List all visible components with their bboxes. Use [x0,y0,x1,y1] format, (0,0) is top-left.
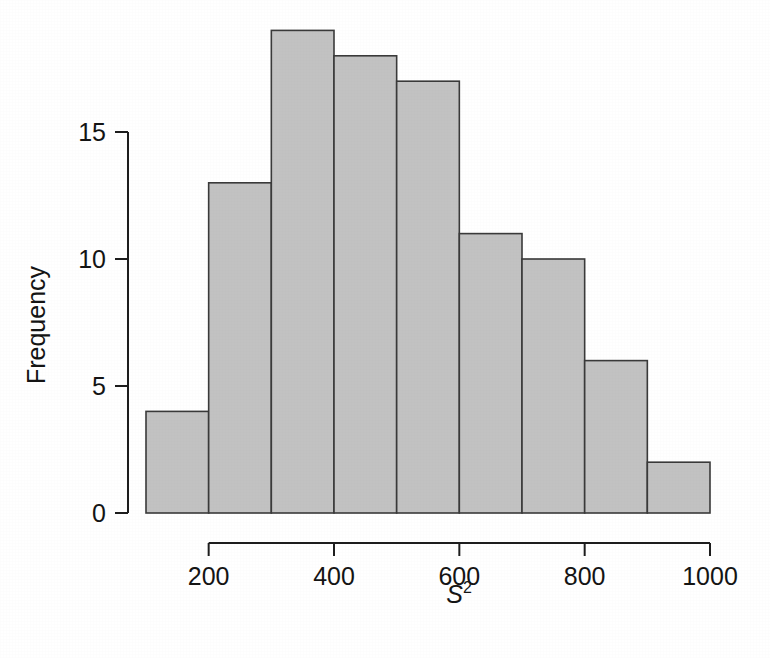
y-tick-label: 15 [78,118,106,146]
histogram-bar [459,234,522,513]
histogram-bar [397,81,460,513]
histogram-bar [334,56,397,513]
histogram-bar [271,30,334,513]
x-tick-label: 200 [188,562,230,590]
histogram-bar [522,259,585,513]
x-tick-label: 800 [564,562,606,590]
x-axis-title-exponent: 2 [463,579,472,596]
histogram-bar [146,411,209,513]
histogram-bar [647,462,710,513]
histogram-bar [209,183,272,513]
y-tick-label: 0 [92,499,106,527]
histogram-bar [585,361,648,513]
y-axis-title: Frequency [22,265,50,384]
histogram-figure: 151050 2004006008001000 Frequency S2 [0,0,770,658]
x-tick-label: 1000 [682,562,738,590]
histogram-plot: 151050 2004006008001000 Frequency S2 [0,0,770,658]
y-axis-title-text: Frequency [22,265,50,384]
y-tick-label: 5 [92,372,106,400]
y-tick-label: 10 [78,245,106,273]
x-axis-title-base: S [446,580,463,608]
x-tick-label: 400 [313,562,355,590]
